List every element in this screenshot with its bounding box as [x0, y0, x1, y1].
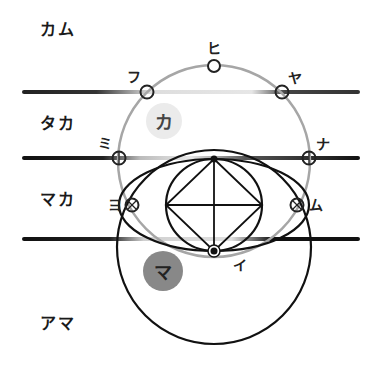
point-label-yo: ヨ: [108, 198, 122, 212]
row-label-taka: タカ: [40, 116, 76, 132]
point-label-hi: ヒ: [207, 41, 221, 55]
point-label-mu: ム: [309, 198, 323, 212]
diagram-canvas: カム タカ マカ アマ ヒ フ ヤ ミ ナ ヨ ム イ カ マ: [0, 0, 381, 370]
badge-ka: カ: [146, 103, 182, 139]
badge-ka-label: カ: [155, 108, 173, 134]
point-label-na: ナ: [316, 137, 330, 151]
point-label-fu: フ: [127, 70, 141, 84]
badge-ma: マ: [143, 251, 183, 291]
point-label-mi: ミ: [98, 136, 112, 150]
row-label-ama: アマ: [40, 316, 76, 332]
row-label-kamu: カム: [40, 22, 76, 38]
badge-ma-label: マ: [154, 258, 172, 284]
row-label-maka: マカ: [40, 192, 76, 208]
point-label-ya: ヤ: [288, 71, 302, 85]
point-i-dot: [211, 248, 218, 255]
point-hi-marker: [208, 60, 220, 72]
apex-dot: [211, 156, 218, 163]
point-label-i: イ: [233, 258, 247, 272]
